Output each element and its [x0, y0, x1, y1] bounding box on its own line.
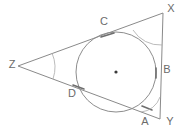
circle-center-dot — [114, 70, 117, 73]
point-label-A: A — [141, 115, 149, 127]
point-label-B: B — [163, 63, 170, 75]
angle-arc-X — [133, 30, 162, 45]
angle-arc-Z — [52, 53, 55, 79]
point-label-D: D — [68, 87, 76, 99]
geometry-figure: Z X Y C B A D — [0, 0, 182, 134]
tangent-mark-A — [142, 106, 152, 110]
triangle-side-ZY — [18, 66, 160, 119]
figure-canvas: Z X Y C B A D — [0, 0, 182, 134]
vertex-label-Y: Y — [166, 115, 174, 127]
vertex-label-Z: Z — [9, 58, 16, 70]
vertex-label-X: X — [167, 2, 175, 14]
point-label-C: C — [100, 15, 108, 27]
triangle-side-ZX — [18, 13, 163, 66]
